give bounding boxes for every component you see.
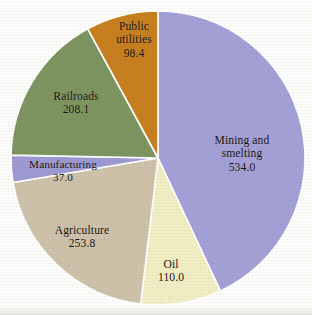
pie-chart-svg <box>0 0 312 315</box>
pie-slice-group <box>11 11 305 305</box>
pie-slice-agriculture <box>13 158 158 304</box>
pie-chart-figure: Mining and smelting 534.0 Oil 110.0 Agri… <box>0 0 312 315</box>
